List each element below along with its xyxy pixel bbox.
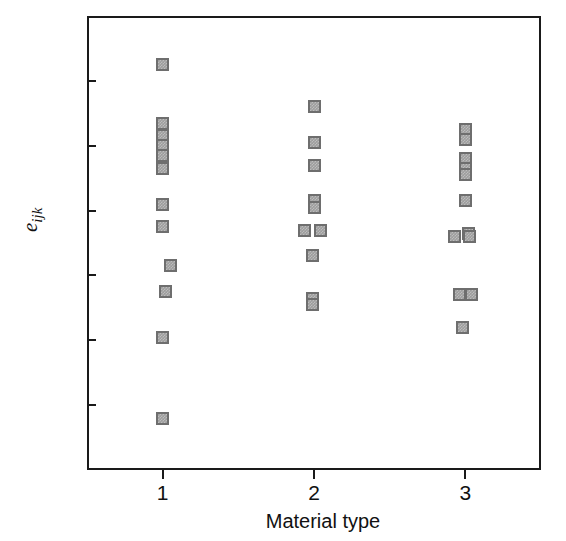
- data-point-marker: [465, 288, 478, 301]
- data-point-marker: [308, 100, 321, 113]
- y-axis-title: eijk: [18, 208, 46, 232]
- data-point-marker: [314, 224, 327, 237]
- x-axis-tick: [162, 470, 164, 479]
- data-point-marker: [298, 224, 311, 237]
- scatter-plot-figure: 6040200−20−40−60−80 123 eijk Material ty…: [0, 0, 566, 541]
- data-point-marker: [459, 133, 472, 146]
- data-point-marker: [453, 288, 466, 301]
- data-point-marker: [156, 412, 169, 425]
- data-point-marker: [156, 331, 169, 344]
- plot-data-area: [87, 16, 541, 470]
- data-point-marker: [164, 259, 177, 272]
- data-point-marker: [156, 198, 169, 211]
- data-point-marker: [456, 321, 469, 334]
- data-point-marker: [308, 201, 321, 214]
- data-point-marker: [159, 285, 172, 298]
- data-point-marker: [156, 149, 169, 162]
- data-point-marker: [306, 298, 319, 311]
- x-axis-title: Material type: [0, 510, 566, 533]
- data-point-marker: [448, 230, 461, 243]
- x-axis-tick: [464, 470, 466, 479]
- data-point-marker: [463, 230, 476, 243]
- data-point-marker: [459, 194, 472, 207]
- data-point-marker: [156, 58, 169, 71]
- data-point-marker: [156, 162, 169, 175]
- data-point-marker: [308, 136, 321, 149]
- data-point-marker: [156, 220, 169, 233]
- x-axis-tick: [313, 470, 315, 479]
- x-axis-tick-label: 2: [284, 481, 344, 505]
- data-point-marker: [308, 159, 321, 172]
- data-point-marker: [459, 168, 472, 181]
- data-point-marker: [306, 249, 319, 262]
- data-point-marker: [156, 117, 169, 130]
- x-axis-tick-label: 3: [435, 481, 495, 505]
- y-axis-title-base: e: [18, 223, 42, 232]
- x-axis-tick-label: 1: [133, 481, 193, 505]
- y-axis-title-subscript: ijk: [29, 208, 45, 223]
